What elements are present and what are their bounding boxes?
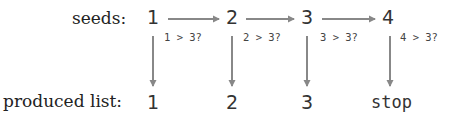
arrows-layer — [0, 0, 458, 121]
